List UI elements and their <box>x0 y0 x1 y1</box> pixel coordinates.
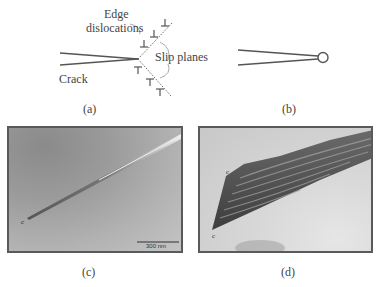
micrograph-c: c 300 nm <box>7 126 183 253</box>
tip-marker-c: c <box>21 218 24 226</box>
caption-b: (b) <box>282 102 296 117</box>
dislocation-bands-image-d <box>200 128 373 253</box>
caption-c: (c) <box>82 265 95 280</box>
micrograph-d: c c <box>198 126 373 253</box>
caption-d: (d) <box>281 265 295 280</box>
edge-dislocations-label-line1: Edge <box>104 7 129 22</box>
slip-planes-label: Slip planes <box>155 50 208 65</box>
caption-a: (a) <box>83 102 96 117</box>
tip-marker-d-lower: c <box>212 232 215 240</box>
panel-b <box>230 40 340 80</box>
crack-image-c <box>9 128 183 253</box>
scale-bar-label: 300 nm <box>146 243 166 249</box>
blunted-crack-diagram <box>230 40 340 80</box>
edge-dislocation-symbols-lower <box>134 67 164 96</box>
tip-marker-d-upper: c <box>226 168 229 176</box>
edge-dislocation-symbols-upper <box>140 19 169 47</box>
blunted-tip-icon <box>318 53 328 63</box>
crack-label: Crack <box>59 72 88 87</box>
edge-dislocations-label-line2: dislocations <box>86 21 143 36</box>
